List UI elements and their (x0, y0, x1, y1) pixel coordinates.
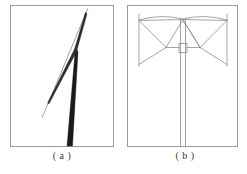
figure-container: ( a ) ( b ) (0, 0, 247, 174)
panel-a (11, 6, 114, 147)
panel-b (128, 6, 238, 147)
figure-drawing (0, 0, 247, 174)
panel-b-caption: ( b ) (123, 150, 247, 161)
panel-a-caption: ( a ) (0, 150, 124, 161)
